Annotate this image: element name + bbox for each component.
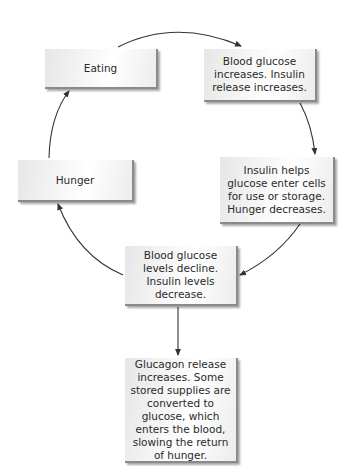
node-glucagon: Glucagon release increases. Some stored …	[125, 358, 238, 463]
node-hunger: Hunger	[18, 160, 134, 202]
node-insulin-action: Insulin helps glucose enter cells for us…	[220, 157, 335, 224]
node-glucose-rise-label: Blood glucose increases. Insulin release…	[210, 55, 309, 94]
node-glucose-rise: Blood glucose increases. Insulin release…	[204, 49, 317, 102]
node-insulin-action-label: Insulin helps glucose enter cells for us…	[226, 164, 327, 216]
node-glucose-decline-label: Blood glucose levels decline. Insulin le…	[135, 249, 226, 301]
node-eating: Eating	[45, 49, 158, 89]
arrow-eating-to-glucose-rise	[118, 32, 241, 47]
arrow-glucose-rise-to-insulin-action	[300, 103, 315, 154]
node-eating-label: Eating	[84, 62, 117, 75]
arrow-hunger-to-eating	[49, 91, 69, 158]
node-glucose-decline: Blood glucose levels decline. Insulin le…	[125, 246, 238, 306]
node-glucagon-label: Glucagon release increases. Some stored …	[129, 358, 232, 462]
node-hunger-label: Hunger	[56, 174, 95, 187]
arrow-glucose-decline-to-hunger	[58, 204, 123, 275]
arrow-insulin-action-to-glucose-decline	[240, 224, 300, 275]
